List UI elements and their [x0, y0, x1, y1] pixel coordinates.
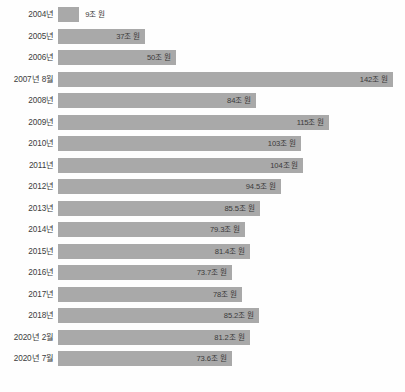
bar-track: 115조 원 — [58, 115, 405, 130]
bar-category-label: 2020년 2월 — [0, 330, 58, 345]
bar-category-label: 2013년 — [0, 201, 58, 216]
bar-row: 2008년84조 원 — [0, 93, 405, 115]
bar: 85.5조 원 — [58, 201, 260, 216]
bar-category-label: 2006년 — [0, 50, 58, 65]
bar-row: 2017년78조 원 — [0, 287, 405, 309]
bar-track: 104조 원 — [58, 158, 405, 173]
bar-track: 37조 원 — [58, 29, 405, 44]
bar-category-label: 2017년 — [0, 287, 58, 302]
bar: 73.7조 원 — [58, 265, 232, 280]
bar-value-label: 81.2조 원 — [214, 330, 249, 345]
bar-track: 142조 원 — [58, 72, 405, 87]
bar-row: 2011년104조 원 — [0, 158, 405, 180]
bar-track: 84조 원 — [58, 93, 405, 108]
bar-category-label: 2010년 — [0, 136, 58, 151]
bar-track: 85.5조 원 — [58, 201, 405, 216]
bar: 81.4조 원 — [58, 244, 250, 259]
bar-row: 2007년 8월142조 원 — [0, 72, 405, 94]
bar-track: 50조 원 — [58, 50, 405, 65]
bar-value-label: 85.2조 원 — [224, 308, 259, 323]
bar-track: 9조 원 — [58, 7, 405, 22]
bar-category-label: 2009년 — [0, 115, 58, 130]
bar-row: 2009년115조 원 — [0, 115, 405, 137]
bar: 103조 원 — [58, 136, 301, 151]
bar-category-label: 2015년 — [0, 244, 58, 259]
bar-row: 2010년103조 원 — [0, 136, 405, 158]
bar: 81.2조 원 — [58, 330, 250, 345]
bar-track: 103조 원 — [58, 136, 405, 151]
bar-track: 81.4조 원 — [58, 244, 405, 259]
bar: 9조 원 — [58, 7, 79, 22]
bar: 50조 원 — [58, 50, 176, 65]
bar: 78조 원 — [58, 287, 242, 302]
bar-value-label: 78조 원 — [213, 287, 242, 302]
bar-track: 94.5조 원 — [58, 179, 405, 194]
bar-value-label: 73.6조 원 — [196, 351, 231, 366]
bar-value-label: 84조 원 — [227, 93, 256, 108]
bar-row: 2015년81.4조 원 — [0, 244, 405, 266]
bar-value-label: 104조 원 — [270, 158, 303, 173]
bar-row: 2006년50조 원 — [0, 50, 405, 72]
bar-row: 2012년94.5조 원 — [0, 179, 405, 201]
bar-track: 79.3조 원 — [58, 222, 405, 237]
bar: 142조 원 — [58, 72, 393, 87]
bar: 85.2조 원 — [58, 308, 259, 323]
bar-value-label: 50조 원 — [147, 50, 176, 65]
bar-track: 81.2조 원 — [58, 330, 405, 345]
bar: 115조 원 — [58, 115, 329, 130]
bar: 79.3조 원 — [58, 222, 245, 237]
bar-row: 2004년9조 원 — [0, 7, 405, 29]
bar-value-label: 73.7조 원 — [197, 265, 232, 280]
bar-track: 73.7조 원 — [58, 265, 405, 280]
bar-category-label: 2004년 — [0, 7, 58, 22]
bar-value-label: 94.5조 원 — [246, 179, 281, 194]
bar-category-label: 2007년 8월 — [0, 72, 58, 87]
bar-category-label: 2012년 — [0, 179, 58, 194]
bar: 94.5조 원 — [58, 179, 281, 194]
bar-row: 2014년79.3조 원 — [0, 222, 405, 244]
bar-rows: 2004년9조 원2005년37조 원2006년50조 원2007년 8월142… — [0, 7, 405, 373]
bar-row: 2013년85.5조 원 — [0, 201, 405, 223]
bar: 84조 원 — [58, 93, 256, 108]
bar-value-label: 37조 원 — [116, 29, 145, 44]
bar-category-label: 2011년 — [0, 158, 58, 173]
bar-category-label: 2008년 — [0, 93, 58, 108]
bar-category-label: 2005년 — [0, 29, 58, 44]
bar-track: 78조 원 — [58, 287, 405, 302]
bar-chart: 2004년9조 원2005년37조 원2006년50조 원2007년 8월142… — [0, 0, 405, 392]
bar-category-label: 2014년 — [0, 222, 58, 237]
bar-row: 2018년85.2조 원 — [0, 308, 405, 330]
bar-row: 2005년37조 원 — [0, 29, 405, 51]
bar: 37조 원 — [58, 29, 145, 44]
bar-value-label: 81.4조 원 — [215, 244, 250, 259]
bar-category-label: 2018년 — [0, 308, 58, 323]
bar-value-label: 85.5조 원 — [225, 201, 260, 216]
bar-value-label: 142조 원 — [360, 72, 393, 87]
bar-value-label: 103조 원 — [268, 136, 301, 151]
bar-track: 73.6조 원 — [58, 351, 405, 366]
bar-value-label: 9조 원 — [79, 7, 105, 22]
bar-row: 2016년73.7조 원 — [0, 265, 405, 287]
bar-value-label: 79.3조 원 — [210, 222, 245, 237]
bar-category-label: 2020년 7월 — [0, 351, 58, 366]
bar-value-label: 115조 원 — [297, 115, 330, 130]
bar-row: 2020년 7월73.6조 원 — [0, 351, 405, 373]
bar: 104조 원 — [58, 158, 303, 173]
bar-category-label: 2016년 — [0, 265, 58, 280]
bar-track: 85.2조 원 — [58, 308, 405, 323]
bar-row: 2020년 2월81.2조 원 — [0, 330, 405, 352]
bar: 73.6조 원 — [58, 351, 232, 366]
